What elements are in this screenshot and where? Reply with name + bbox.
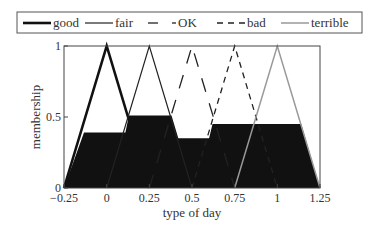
- x-tick-label: 1: [274, 191, 280, 205]
- x-tick-label: 0.25: [139, 191, 160, 205]
- x-tick-label: 0.5: [185, 191, 200, 205]
- legend-label: terrible: [311, 15, 349, 30]
- y-axis-label: membership: [28, 85, 43, 149]
- x-axis-label: type of day: [163, 205, 222, 220]
- x-tick-label: 1.25: [310, 191, 331, 205]
- aggregated-fill-area: [64, 116, 320, 188]
- aggregated-fill-polygon: [64, 116, 320, 188]
- legend-label: bad: [247, 15, 266, 30]
- legend-label: good: [53, 15, 80, 30]
- y-tick-label: 0.5: [46, 110, 61, 124]
- x-tick-label: 0: [104, 191, 110, 205]
- membership-chart: goodfairOKbadterrible −0.2500.250.50.751…: [0, 0, 378, 231]
- legend: goodfairOKbadterrible: [17, 12, 362, 33]
- legend-label: OK: [178, 15, 197, 30]
- legend-label: fair: [115, 15, 134, 30]
- y-tick-label: 0: [55, 181, 61, 195]
- x-tick-label: 0.75: [224, 191, 245, 205]
- y-tick-label: 1: [55, 39, 61, 53]
